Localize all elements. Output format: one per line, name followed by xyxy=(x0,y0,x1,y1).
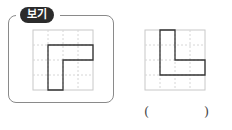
question-shape xyxy=(160,30,205,75)
example-shape xyxy=(48,45,93,90)
answer-open-paren: ( xyxy=(144,104,149,119)
answer-blank[interactable] xyxy=(152,104,204,120)
answer-close-paren: ) xyxy=(204,104,209,119)
